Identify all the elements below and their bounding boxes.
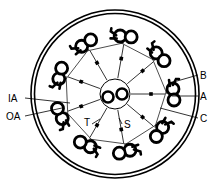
b-tubule <box>52 103 64 115</box>
radial-spoke <box>118 45 124 78</box>
nexin-link <box>66 76 68 116</box>
outer-dynein-arm <box>152 41 154 49</box>
central-apparatus <box>100 79 130 109</box>
radial-spoke <box>68 77 100 89</box>
b-tubule <box>125 31 137 43</box>
label-T: T <box>84 117 90 128</box>
central-tubule-right <box>117 89 128 100</box>
radial-spoke <box>68 99 100 111</box>
spoke-head <box>95 123 100 128</box>
central-tubule-left <box>103 92 114 103</box>
b-tubule <box>158 55 170 67</box>
spoke-head <box>79 79 84 84</box>
b-tubule <box>85 34 97 46</box>
radial-spoke <box>90 51 107 80</box>
b-tubule <box>113 147 125 159</box>
spoke-head <box>79 104 84 109</box>
radial-spoke <box>127 62 153 84</box>
inner-dynein-arm <box>169 80 170 86</box>
b-tubule <box>150 131 162 143</box>
radial-spoke <box>127 104 153 126</box>
label-S: S <box>124 119 131 130</box>
label-IA: IA <box>8 93 18 104</box>
spoke-head <box>149 92 153 96</box>
spoke-head <box>119 56 123 60</box>
radial-spoke <box>118 110 124 143</box>
spoke-head <box>95 60 100 65</box>
doublet <box>155 79 180 127</box>
b-tubule <box>74 136 86 148</box>
radial-spoke <box>90 108 107 137</box>
label-A: A <box>200 91 207 102</box>
b-tubule <box>56 62 68 74</box>
inner-dynein-arm <box>59 83 60 89</box>
spoke-head <box>119 127 123 131</box>
leader-C <box>160 108 198 118</box>
axoneme-diagram: B A C IA OA T S <box>0 0 219 189</box>
label-B: B <box>200 70 207 81</box>
label-OA: OA <box>6 111 21 122</box>
label-C: C <box>200 113 207 124</box>
